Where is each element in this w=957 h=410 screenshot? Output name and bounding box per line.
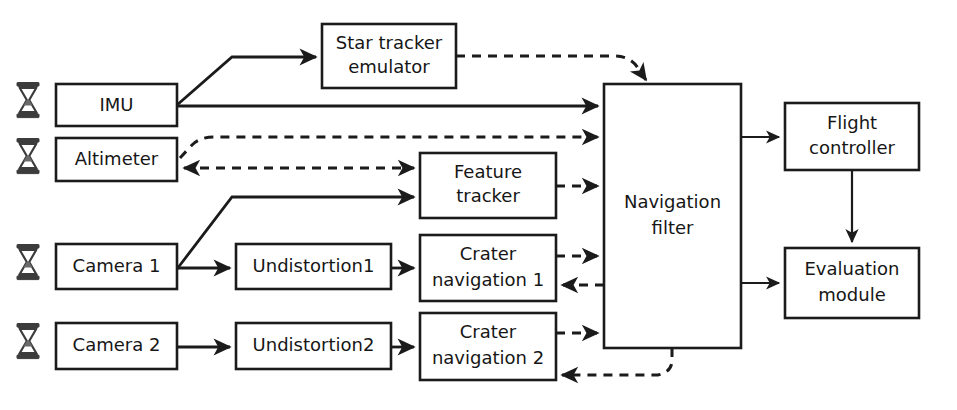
node-navigation-filter-label-line2: filter — [652, 217, 694, 238]
hourglass-icon — [17, 245, 39, 280]
node-navigation-filter-label-line1: Navigation — [624, 191, 721, 212]
edge-imu-to-star-tracker — [177, 57, 316, 105]
node-camera-2[interactable]: Camera 2 — [56, 323, 177, 369]
node-undistortion-1-label: Undistortion1 — [253, 255, 375, 276]
node-imu[interactable]: IMU — [56, 84, 177, 126]
node-crater-navigation-2-label-line2: navigation 2 — [432, 347, 544, 368]
node-camera-2-label: Camera 2 — [73, 334, 161, 355]
node-camera-1[interactable]: Camera 1 — [56, 244, 177, 289]
node-undistortion-2-label: Undistortion2 — [253, 334, 375, 355]
node-evaluation-module[interactable]: Evaluation module — [785, 248, 919, 318]
node-feature-tracker[interactable]: Feature tracker — [420, 153, 556, 218]
hourglass-icon — [17, 139, 39, 174]
node-undistortion-1[interactable]: Undistortion1 — [236, 244, 391, 289]
node-star-tracker-emulator[interactable]: Star tracker emulator — [322, 24, 456, 88]
node-flight-controller-label-line1: Flight — [827, 112, 877, 133]
sensor-icon-layer — [17, 83, 39, 359]
node-camera-1-label: Camera 1 — [73, 255, 161, 276]
node-undistortion-2[interactable]: Undistortion2 — [236, 323, 391, 369]
node-crater-navigation-1[interactable]: Crater navigation 1 — [420, 235, 556, 301]
hourglass-icon — [17, 83, 39, 118]
node-crater-navigation-1-label-line2: navigation 1 — [432, 269, 544, 290]
block-diagram: IMU Altimeter Camera 1 Camera 2 Star tra… — [0, 0, 957, 410]
node-flight-controller-label-line2: controller — [809, 137, 895, 158]
node-crater-navigation-2-label-line1: Crater — [460, 321, 517, 342]
node-evaluation-module-label-line1: Evaluation — [805, 258, 900, 279]
node-feature-tracker-label-line2: tracker — [456, 185, 520, 206]
node-altimeter[interactable]: Altimeter — [56, 138, 177, 181]
node-star-tracker-emulator-label-line2: emulator — [348, 56, 430, 77]
node-crater-navigation-2[interactable]: Crater navigation 2 — [420, 313, 556, 380]
node-imu-label: IMU — [99, 94, 133, 115]
node-altimeter-label: Altimeter — [75, 148, 159, 169]
node-flight-controller[interactable]: Flight controller — [785, 103, 919, 170]
node-navigation-filter[interactable]: Navigation filter — [604, 84, 741, 348]
node-layer: IMU Altimeter Camera 1 Camera 2 Star tra… — [56, 24, 919, 380]
node-evaluation-module-label-line2: module — [818, 284, 885, 305]
node-navigation-filter-rect[interactable] — [604, 84, 741, 348]
edge-star-tracker-to-nav-filter — [456, 56, 646, 80]
hourglass-icon — [17, 324, 39, 359]
diagram-canvas: IMU Altimeter Camera 1 Camera 2 Star tra… — [0, 0, 957, 410]
node-crater-navigation-1-label-line1: Crater — [460, 243, 517, 264]
node-feature-tracker-label-line1: Feature — [454, 161, 522, 182]
edge-nav-filter-to-crater-nav-2 — [562, 348, 672, 375]
node-star-tracker-emulator-label-line1: Star tracker — [336, 32, 443, 53]
